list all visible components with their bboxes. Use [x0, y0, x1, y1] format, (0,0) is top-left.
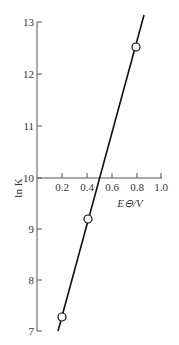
y-tick-label: 8: [29, 274, 35, 286]
x-ticks: [62, 173, 161, 178]
data-point: [58, 313, 66, 321]
chart: 13 12 11 10 9 8 7 ln K 0.2 0.4 0.6 0.8 1…: [0, 0, 179, 345]
x-tick-label: 0.2: [55, 181, 69, 193]
x-axis-title: E⊖/V: [116, 197, 144, 209]
x-tick-label: 0.6: [105, 181, 119, 193]
y-tick-label: 9: [29, 223, 35, 235]
y-tick-labels: 13 12 11 10 9 8 7: [23, 16, 35, 337]
y-tick-label: 13: [23, 16, 35, 28]
y-tick-label: 7: [29, 325, 35, 337]
y-tick-label: 10: [23, 172, 35, 184]
x-tick-labels: 0.2 0.4 0.6 0.8 1.0: [55, 181, 168, 193]
fit-line: [58, 15, 144, 331]
x-tick-label: 1.0: [154, 181, 168, 193]
y-tick-label: 12: [23, 68, 34, 80]
y-ticks: [37, 22, 42, 331]
x-tick-label: 0.4: [80, 181, 94, 193]
data-point: [132, 43, 140, 51]
x-tick-label: 0.8: [130, 181, 144, 193]
y-tick-label: 11: [23, 120, 34, 132]
y-axis-title: ln K: [12, 178, 24, 197]
data-point: [84, 215, 92, 223]
